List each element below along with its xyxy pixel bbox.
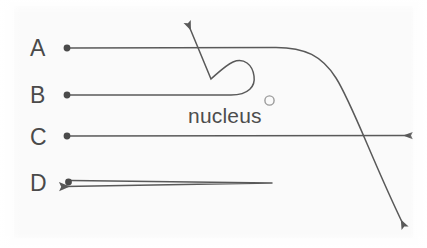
track-label-d: D [30, 172, 47, 195]
track-d-start-dot [65, 179, 72, 186]
track-label-a: A [30, 37, 46, 60]
nucleus-label: nucleus [188, 105, 262, 126]
particle-deflection-figure: A B C D nucleus [0, 0, 427, 248]
track-b-path [64, 26, 255, 98]
track-b-start-dot [64, 92, 71, 99]
track-label-c: C [30, 126, 47, 149]
track-a-start-dot [64, 45, 71, 52]
track-label-b: B [30, 84, 46, 107]
track-c-start-dot [64, 133, 71, 140]
track-c-path [64, 133, 408, 140]
nucleus-open-circle-icon [265, 96, 274, 105]
track-d-path [65, 179, 273, 187]
track-a-path [64, 45, 403, 224]
